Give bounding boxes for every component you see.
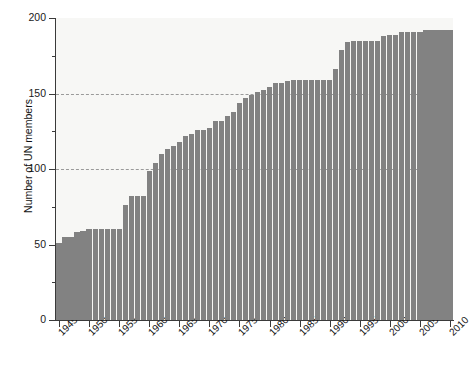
bar	[105, 229, 110, 320]
bar	[165, 149, 170, 320]
un-members-bar-chart: 050100150200 194519501955196019651970197…	[0, 0, 469, 367]
bar	[99, 229, 104, 320]
bar	[117, 229, 122, 320]
bar	[309, 80, 314, 320]
bar	[141, 196, 146, 320]
bar	[74, 232, 79, 320]
bar	[405, 32, 410, 320]
bar	[237, 103, 242, 320]
y-tick-label-0: 0	[6, 314, 46, 325]
bar	[393, 35, 398, 320]
bar	[171, 146, 176, 320]
bar	[345, 42, 350, 320]
bar	[219, 121, 224, 320]
bar	[243, 98, 248, 320]
bar	[375, 41, 380, 320]
bar	[411, 32, 416, 320]
bar	[435, 30, 440, 320]
bar	[267, 87, 272, 320]
bar	[135, 196, 140, 320]
bar	[207, 128, 212, 320]
bar	[285, 81, 290, 320]
bars-group	[56, 18, 453, 320]
bar	[183, 136, 188, 320]
bar	[369, 41, 374, 320]
bar	[195, 130, 200, 320]
bar	[303, 80, 308, 320]
bar	[68, 237, 73, 320]
bar	[357, 41, 362, 320]
bar	[327, 80, 332, 320]
bar	[429, 30, 434, 320]
bar	[441, 30, 446, 320]
bar	[231, 112, 236, 320]
bar	[417, 32, 422, 320]
y-tick-major-0	[49, 320, 56, 321]
bar	[62, 237, 67, 320]
bar	[249, 95, 254, 320]
bar	[399, 32, 404, 320]
bar	[111, 229, 116, 320]
bar	[297, 80, 302, 320]
y-tick-label-200: 200	[6, 12, 46, 23]
bar	[225, 116, 230, 320]
y-axis-title: Number of UN members	[22, 66, 34, 246]
bar	[381, 36, 386, 320]
bar	[80, 231, 85, 320]
bar	[291, 80, 296, 320]
y-tick-major-200	[49, 18, 56, 19]
bar	[273, 83, 278, 320]
bar	[129, 196, 134, 320]
bar	[159, 154, 164, 320]
y-tick-major-150	[49, 94, 56, 95]
bar	[423, 30, 428, 320]
bar	[351, 41, 356, 320]
y-tick-major-50	[49, 245, 56, 246]
bar	[339, 50, 344, 320]
bar	[147, 171, 152, 320]
bar	[387, 35, 392, 320]
bar	[86, 229, 91, 320]
y-tick-major-100	[49, 169, 56, 170]
bar	[56, 243, 61, 320]
bar	[447, 30, 452, 320]
bar	[333, 69, 338, 320]
bar	[93, 229, 98, 320]
bar	[255, 92, 260, 320]
bar	[189, 134, 194, 320]
bar	[177, 142, 182, 320]
bar	[321, 80, 326, 320]
bar	[261, 90, 266, 320]
bar	[315, 80, 320, 320]
bar	[153, 163, 158, 320]
bar	[279, 83, 284, 320]
bar	[123, 205, 128, 320]
bar	[213, 121, 218, 320]
bar	[363, 41, 368, 320]
bar	[201, 130, 206, 320]
